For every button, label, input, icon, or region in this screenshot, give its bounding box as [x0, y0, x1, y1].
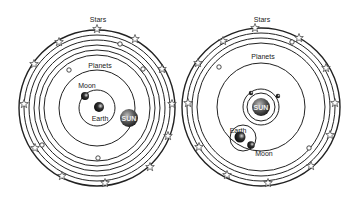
sun-label: SUN — [254, 104, 269, 111]
stars-label: Stars — [254, 16, 271, 23]
stars-label: Stars — [90, 16, 107, 23]
mercury-icon — [249, 91, 253, 95]
moon-label: Moon — [78, 82, 96, 89]
moon-icon — [247, 141, 255, 149]
heliocentric-diagram: Stars Planets SUN Earth Moon — [182, 16, 340, 187]
earth-icon — [235, 132, 246, 143]
planets-label: Planets — [88, 62, 112, 69]
moon-icon — [81, 92, 89, 100]
venus-icon — [276, 94, 280, 98]
earth-label: Earth — [92, 115, 109, 122]
moon-label: Moon — [255, 150, 273, 157]
planets-label: Planets — [251, 53, 275, 60]
sun-label: SUN — [122, 115, 137, 122]
geocentric-diagram: Stars Planets Moon Earth SUN — [19, 16, 176, 187]
cosmology-diagrams: Stars Planets Moon Earth SUN — [0, 0, 359, 204]
earth-icon — [94, 102, 104, 112]
